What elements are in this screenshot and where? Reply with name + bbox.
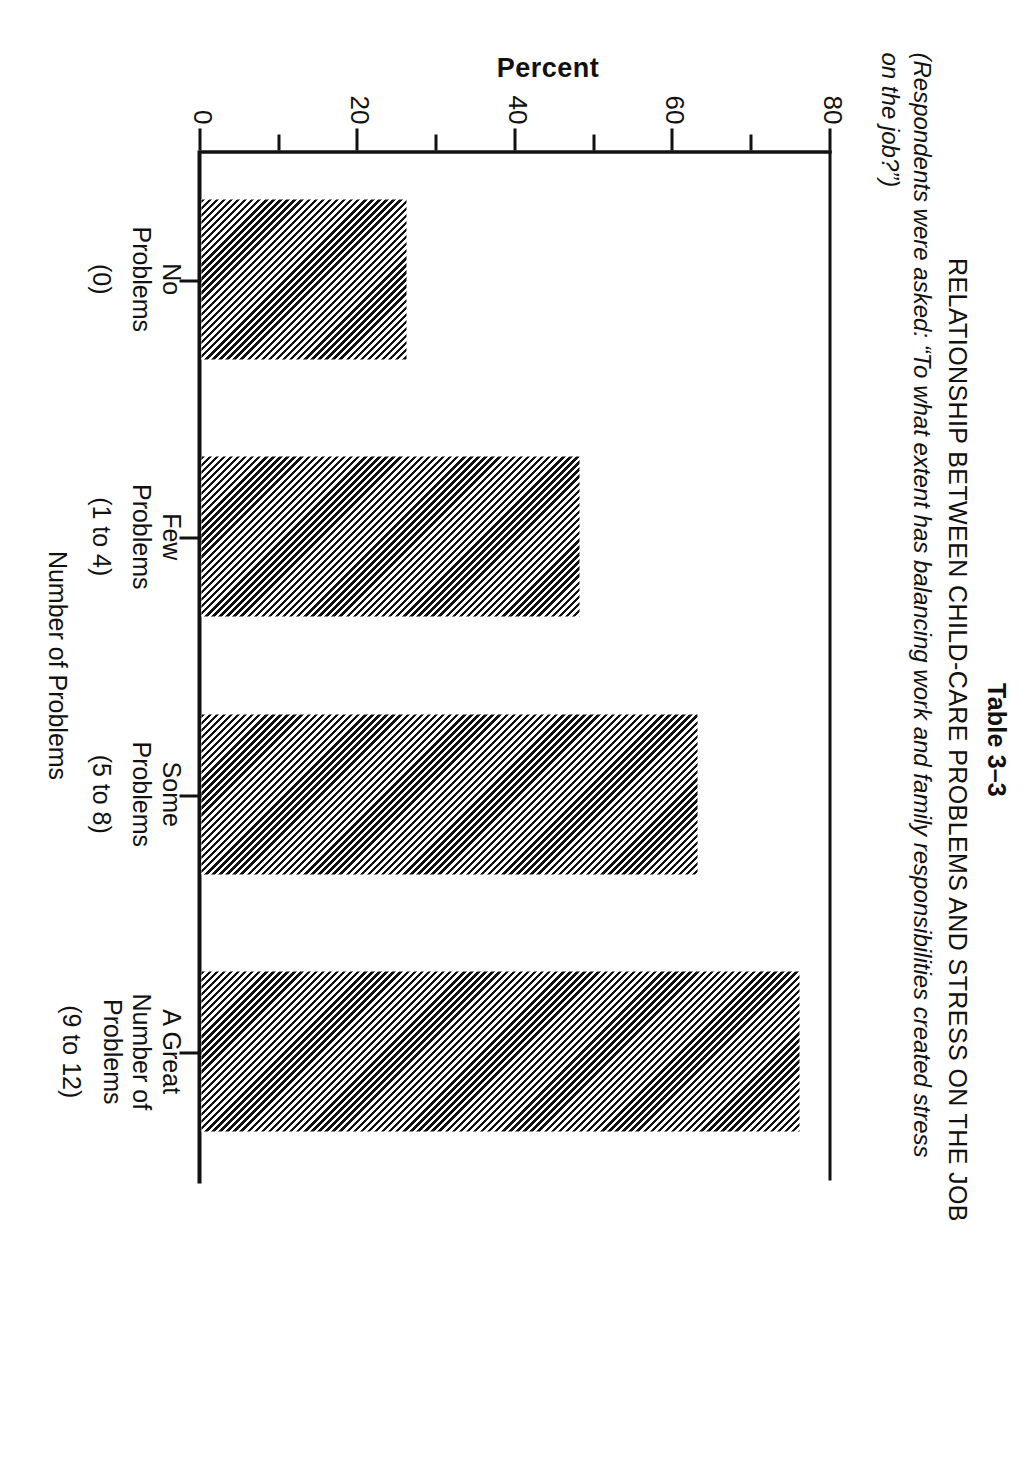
x-axis-title: Number of Problems [42, 150, 71, 1180]
value-axis-baseline [197, 150, 201, 1183]
table-number: Table 3–3 [980, 0, 1011, 1479]
x-tick-label: A Great Number of Problems [97, 923, 186, 1181]
x-tick-label: Some Problems [126, 665, 185, 923]
y-tick-label: 20 [344, 62, 375, 124]
x-tick-label: Few Problems [126, 408, 185, 666]
y-tick-major [198, 128, 201, 150]
title-block: Table 3–3 RELATIONSHIP BETWEEN CHILD-CAR… [941, 0, 1012, 1479]
bar [201, 714, 697, 874]
y-tick-major [671, 128, 674, 150]
bar [201, 456, 579, 616]
subtitle-line-1: (Respondents were asked: “To what extent… [905, 52, 937, 1452]
y-tick-minor [749, 134, 752, 150]
subtitle-line-2: on the job?”) [874, 52, 906, 1452]
y-tick-minor [277, 134, 280, 150]
x-tick-range-label: (5 to 8) [86, 665, 116, 923]
page-title: RELATIONSHIP BETWEEN CHILD-CARE PROBLEMS… [941, 0, 972, 1479]
x-tick-range-label: (1 to 4) [86, 408, 116, 666]
y-tick-label: 80 [816, 62, 847, 124]
y-tick-minor [434, 134, 437, 150]
subtitle-block: (Respondents were asked: “To what extent… [874, 52, 937, 1452]
bar [201, 199, 406, 359]
x-tick-range-label: (0) [86, 150, 116, 408]
y-tick-minor [592, 134, 595, 150]
y-tick-major [513, 128, 516, 150]
y-tick-major [356, 128, 359, 150]
chart-page: Table 3–3 RELATIONSHIP BETWEEN CHILD-CAR… [0, 0, 1033, 1479]
y-tick-label: 0 [186, 62, 217, 124]
x-tick-label: No Problems [126, 150, 185, 408]
y-axis-title: Percent [418, 53, 678, 84]
y-tick-major [828, 128, 831, 150]
bar [201, 971, 800, 1131]
